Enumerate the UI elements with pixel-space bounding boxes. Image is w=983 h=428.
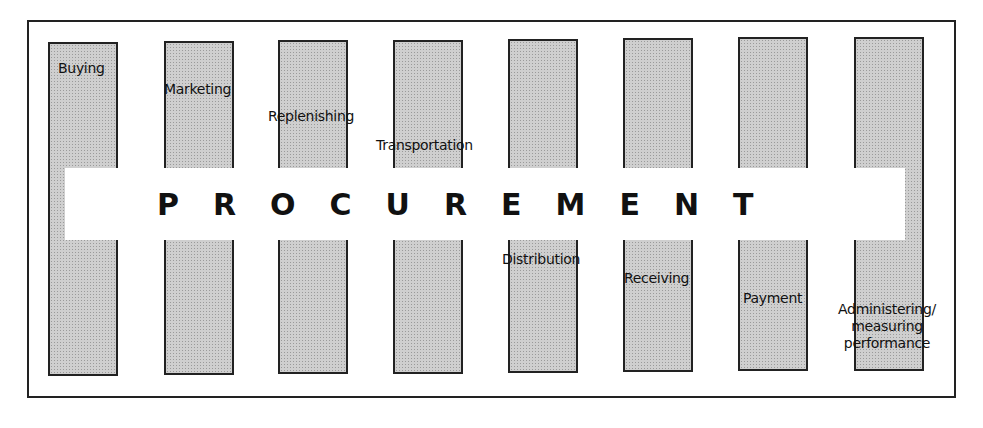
banner-title: PROCUREMENT xyxy=(65,168,905,240)
label-buying: Buying xyxy=(58,60,105,77)
label-administering: Administering/ measuring performance xyxy=(829,301,945,352)
label-replenishing: Replenishing xyxy=(268,108,354,125)
label-receiving: Receiving xyxy=(624,270,689,287)
label-distribution: Distribution xyxy=(502,251,580,268)
label-transportation: Transportation xyxy=(376,137,473,154)
procurement-banner: PROCUREMENT xyxy=(65,168,905,240)
label-payment: Payment xyxy=(743,290,802,307)
label-marketing: Marketing xyxy=(164,81,231,98)
